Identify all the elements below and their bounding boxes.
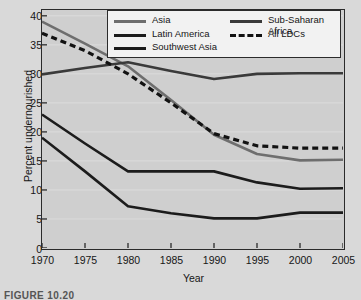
legend-swatch-line-black	[114, 29, 146, 42]
series-line-southwest-asia	[42, 138, 343, 219]
legend-column-right: Sub-Saharan AfricaAll LDCs	[230, 15, 340, 42]
y-tick-label: 15	[8, 156, 42, 166]
x-tick-label: 1990	[195, 254, 235, 266]
y-tick-label: 40	[8, 11, 42, 21]
legend-label: Asia	[152, 15, 170, 26]
x-tick-label: 2005	[324, 254, 361, 266]
legend-label: All LDCs	[268, 29, 305, 40]
x-tick-label: 1980	[109, 254, 149, 266]
y-tick-label: 25	[8, 98, 42, 108]
legend-swatch-line-black	[114, 42, 146, 55]
x-tick-label: 2000	[281, 254, 321, 266]
figure-caption: FIGURE 10.20	[4, 290, 74, 300]
legend-item: Southwest Asia	[114, 42, 226, 56]
figure-root: Percent undernourished 0510152025303540 …	[0, 0, 361, 300]
legend-swatch-line-dark	[230, 15, 262, 28]
y-tick-label: 10	[8, 185, 42, 195]
x-axis-title: Year	[41, 272, 346, 284]
legend-label: Southwest Asia	[152, 42, 217, 53]
series-line-latin-america	[42, 114, 343, 188]
x-tick-label: 1985	[152, 254, 192, 266]
legend-swatch-line-gray	[114, 15, 146, 28]
y-tick-label: 35	[8, 40, 42, 50]
legend-item: Latin America	[114, 29, 226, 43]
y-tick-label: 0	[8, 244, 42, 254]
series-line-sub-saharan-africa	[42, 62, 343, 79]
legend-item: Sub-Saharan Africa	[230, 15, 340, 29]
legend-item: Asia	[114, 15, 226, 29]
legend-label: Latin America	[152, 29, 210, 40]
chart-legend: AsiaLatin AmericaSouthwest Asia Sub-Saha…	[107, 10, 341, 58]
legend-swatch-line-dashed	[230, 29, 262, 42]
y-tick-label: 20	[8, 127, 42, 137]
legend-column-left: AsiaLatin AmericaSouthwest Asia	[114, 15, 226, 56]
y-tick-label: 30	[8, 69, 42, 79]
x-tick-label: 1970	[23, 254, 63, 266]
x-tick-label: 1975	[66, 254, 106, 266]
y-tick-label: 5	[8, 214, 42, 224]
x-tick-label: 1995	[238, 254, 278, 266]
